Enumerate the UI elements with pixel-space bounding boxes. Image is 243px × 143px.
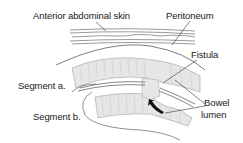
skin-layers (70, 29, 195, 44)
label-lumen: lumen (201, 109, 226, 120)
label-segment-b: Segment b. (33, 111, 81, 122)
label-segment-a: Segment a. (18, 80, 66, 91)
label-bowel: Bowel (204, 97, 229, 108)
diagram-canvas: Anterior abdominal skin Peritoneum Fistu… (0, 0, 243, 143)
label-fistula: Fistula (191, 49, 218, 60)
label-anterior-abdominal-skin: Anterior abdominal skin (33, 10, 130, 21)
fistula-tract (142, 78, 160, 100)
bowel-segment-b (95, 93, 192, 126)
label-peritoneum: Peritoneum (166, 10, 214, 21)
